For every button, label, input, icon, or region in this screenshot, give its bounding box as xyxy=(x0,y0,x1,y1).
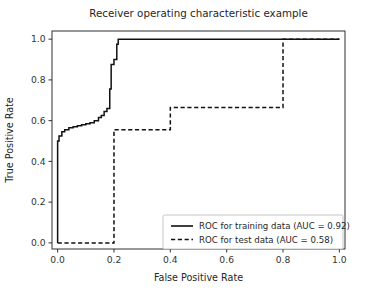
legend-label-test: ROC for test data (AUC = 0.58) xyxy=(199,235,333,245)
x-tick-label: 0.6 xyxy=(219,254,234,265)
x-tick-label: 1.0 xyxy=(332,254,347,265)
x-tick-label: 0.0 xyxy=(50,254,65,265)
x-tick-label: 0.4 xyxy=(163,254,178,265)
data-series-group xyxy=(58,39,340,243)
y-axis-tick-labels: 0.00.20.40.60.81.0 xyxy=(31,33,46,248)
y-axis-label: True Positive Rate xyxy=(4,97,15,184)
chart-title: Receiver operating characteristic exampl… xyxy=(89,7,307,19)
y-tick-label: 0.8 xyxy=(31,74,46,85)
x-tick-label: 0.8 xyxy=(276,254,291,265)
chart-legend[interactable]: ROC for training data (AUC = 0.92)ROC fo… xyxy=(163,215,350,249)
series-line-test xyxy=(58,39,340,243)
roc-chart-figure: Receiver operating characteristic exampl… xyxy=(0,0,369,292)
series-line-training xyxy=(58,39,340,243)
y-tick-label: 0.0 xyxy=(31,237,46,248)
x-axis-tick-marks xyxy=(58,249,340,253)
x-axis-tick-labels: 0.00.20.40.60.81.0 xyxy=(50,254,346,265)
chart-canvas: Receiver operating characteristic exampl… xyxy=(0,0,369,292)
y-tick-label: 0.2 xyxy=(31,196,46,207)
y-tick-label: 0.6 xyxy=(31,115,46,126)
y-tick-label: 0.4 xyxy=(31,156,46,167)
x-axis-label: False Positive Rate xyxy=(154,272,243,283)
legend-label-training: ROC for training data (AUC = 0.92) xyxy=(199,221,350,231)
x-tick-label: 0.2 xyxy=(107,254,122,265)
y-tick-label: 1.0 xyxy=(31,33,46,44)
y-axis-tick-marks xyxy=(49,39,53,243)
